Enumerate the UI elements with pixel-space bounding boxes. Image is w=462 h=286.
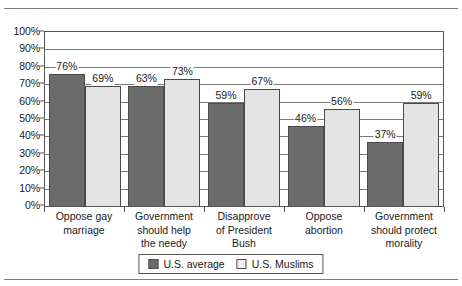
legend-swatch-icon <box>148 259 158 269</box>
bar-group: 37%59% <box>363 32 443 206</box>
y-axis-tick <box>39 118 44 119</box>
y-axis-tick <box>39 205 44 206</box>
bar-group: 46%56% <box>284 32 364 206</box>
y-axis-tick-label: 50% <box>19 112 40 124</box>
x-axis-tick <box>444 207 445 212</box>
x-axis-category-line: should protect <box>366 224 442 238</box>
x-axis-category-label: Opposeabortion <box>284 210 364 251</box>
y-axis-tick <box>39 83 44 84</box>
x-axis-category-line: should help <box>126 224 202 238</box>
bar[interactable]: 56% <box>324 109 360 206</box>
legend-label: U.S. Muslims <box>252 258 314 270</box>
legend-item[interactable]: U.S. average <box>148 258 224 270</box>
bar[interactable]: 59% <box>403 103 439 206</box>
bar-value-label: 59% <box>214 89 237 102</box>
bar-value-label: 46% <box>294 112 317 125</box>
legend-swatch-icon <box>237 259 247 269</box>
x-axis-category-line: the needy <box>126 237 202 251</box>
y-axis-tick-label: 90% <box>19 42 40 54</box>
bar-value-label: 37% <box>374 128 397 141</box>
x-axis-category-label: Disapproveof PresidentBush <box>204 210 284 251</box>
x-axis-category-line: Government <box>126 210 202 224</box>
x-axis-category-line: Bush <box>206 237 282 251</box>
bar-value-label: 67% <box>250 75 273 88</box>
x-axis-category-line: abortion <box>286 224 362 238</box>
bar[interactable]: 46% <box>288 126 324 206</box>
y-axis-tick-label: 80% <box>19 60 40 72</box>
y-axis-tick <box>39 135 44 136</box>
legend-item[interactable]: U.S. Muslims <box>237 258 314 270</box>
y-axis-tick <box>39 170 44 171</box>
x-axis-category-line: Disapprove <box>206 210 282 224</box>
y-axis-tick-label: 20% <box>19 164 40 176</box>
y-axis-labels: 100%90%80%70%60%50%40%30%20%10%0% <box>0 31 40 207</box>
y-axis-tick <box>39 100 44 101</box>
bar-group: 59%67% <box>204 32 284 206</box>
y-axis-tick-label: 40% <box>19 129 40 141</box>
x-axis-category-line: Oppose gay <box>46 210 122 224</box>
y-axis-tick-label: 30% <box>19 147 40 159</box>
y-axis-tick-label: 100% <box>14 25 40 37</box>
bar-group: 63%73% <box>125 32 205 206</box>
bar[interactable]: 67% <box>244 89 280 206</box>
bar-value-label: 59% <box>410 89 433 102</box>
y-axis-tick-label: 70% <box>19 77 40 89</box>
x-axis-category-label: Governmentshould helpthe needy <box>124 210 204 251</box>
y-axis-tick-label: 10% <box>19 182 40 194</box>
plot-area: 76%69%63%73%59%67%46%56%37%59% <box>45 32 443 206</box>
bar[interactable]: 73% <box>164 79 200 206</box>
y-axis-tick <box>39 187 44 188</box>
y-axis-tick-label: 60% <box>19 95 40 107</box>
bar[interactable]: 59% <box>208 103 244 206</box>
page-divider-top <box>4 8 458 9</box>
legend-label: U.S. average <box>163 258 224 270</box>
bar-chart-figure: 100%90%80%70%60%50%40%30%20%10%0% 76%69%… <box>0 14 462 276</box>
bar-value-label: 76% <box>55 60 78 73</box>
bar[interactable]: 76% <box>49 74 85 206</box>
bar[interactable]: 69% <box>85 86 121 206</box>
bar-value-label: 63% <box>135 72 158 85</box>
chart-legend: U.S. averageU.S. Muslims <box>138 254 323 274</box>
x-axis-category-line: Oppose <box>286 210 362 224</box>
bar[interactable]: 37% <box>367 142 403 206</box>
bar[interactable]: 63% <box>128 86 164 206</box>
bar-group: 76%69% <box>45 32 125 206</box>
x-axis-category-label: Oppose gaymarriage <box>44 210 124 251</box>
y-axis-tick <box>39 48 44 49</box>
bar-value-label: 69% <box>91 72 114 85</box>
x-axis-category-line: of President <box>206 224 282 238</box>
y-axis-tick-label: 0% <box>25 199 40 211</box>
y-axis-tick <box>39 31 44 32</box>
x-axis-category-label: Governmentshould protectmorality <box>364 210 444 251</box>
x-axis-category-line: morality <box>366 237 442 251</box>
x-axis-category-line: Government <box>366 210 442 224</box>
bar-value-label: 56% <box>330 95 353 108</box>
y-axis-tick <box>39 65 44 66</box>
bar-value-label: 73% <box>171 65 194 78</box>
page-divider-bottom <box>4 279 458 280</box>
x-axis-labels: Oppose gaymarriageGovernmentshould helpt… <box>44 210 444 251</box>
y-axis-tick <box>39 152 44 153</box>
x-axis-category-line: marriage <box>46 224 122 238</box>
